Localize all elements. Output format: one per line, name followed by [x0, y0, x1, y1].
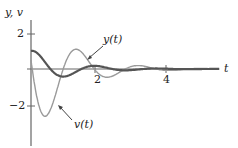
- plot-area: [0, 0, 238, 148]
- y-tick-label-2: 2: [17, 27, 24, 40]
- y-curve: [31, 51, 219, 77]
- y-axis-label: y, v: [5, 6, 23, 19]
- y-curve-annotation: y(t): [103, 33, 122, 46]
- x-tick-label-2: 2: [94, 73, 101, 86]
- v-curve-annotation: v(t): [74, 118, 93, 131]
- x-axis-label: t: [224, 62, 228, 75]
- v-annotation-arrow: [60, 107, 72, 120]
- y-annotation-arrow: [89, 46, 103, 58]
- y-tick-label-neg2: −2: [9, 99, 25, 112]
- damped-oscillation-chart: y, v 2 −2 2 4 t y(t) v(t): [0, 0, 238, 148]
- x-tick-label-4: 4: [163, 73, 170, 86]
